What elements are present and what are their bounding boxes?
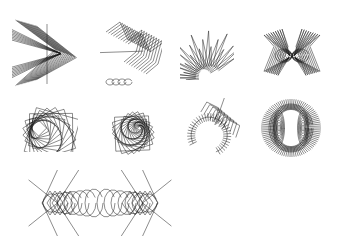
figure-square-spiral-small <box>20 106 78 152</box>
symmetric-knot-pattern <box>24 170 176 236</box>
fan-arc-pattern <box>180 24 234 80</box>
chevron-fan-pattern <box>12 12 82 92</box>
figure-fan-arc <box>180 24 234 80</box>
square-spiral-small-pattern <box>20 106 78 152</box>
figure-butterfly <box>262 22 322 80</box>
figure-square-spiral <box>112 104 162 158</box>
zigzag-curl-pattern <box>100 18 162 90</box>
figure-symmetric-knot <box>24 170 176 236</box>
square-spiral-pattern <box>112 104 162 158</box>
figure-chevron-fan <box>12 12 82 92</box>
figure-dense-ring <box>258 98 324 158</box>
hook-spiral-pattern <box>184 98 240 158</box>
dense-ring-pattern <box>258 98 324 158</box>
butterfly-pattern <box>262 22 322 80</box>
figure-hook-spiral <box>184 98 240 158</box>
figure-zigzag-curl <box>100 18 162 90</box>
